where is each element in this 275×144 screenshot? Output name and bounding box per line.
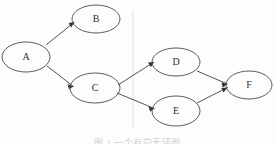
edge-line	[118, 62, 154, 85]
edge-line	[197, 71, 228, 84]
node-d[interactable]: D	[152, 48, 200, 76]
node-label: A	[22, 51, 30, 62]
edge-e-to-f	[197, 88, 228, 104]
edge-line	[47, 66, 74, 87]
node-f[interactable]: F	[226, 71, 272, 99]
node-label: F	[246, 79, 252, 90]
node-b[interactable]: B	[72, 5, 120, 33]
edge-d-to-f	[197, 71, 228, 88]
node-label: E	[173, 105, 179, 116]
node-e[interactable]: E	[152, 96, 200, 126]
figure-canvas: A B C D E F 图 1 一个有向无环图	[0, 0, 275, 144]
edge-a-to-b	[46, 22, 75, 45]
node-label: D	[172, 56, 179, 67]
edge-c-to-e	[117, 93, 155, 112]
edge-c-to-d	[118, 62, 154, 85]
edge-line	[117, 93, 155, 109]
node-label: C	[92, 82, 99, 93]
directed-graph: A B C D E F	[0, 0, 275, 144]
figure-caption: 图 1 一个有向无环图	[0, 137, 275, 144]
edge-a-to-c	[47, 66, 74, 89]
node-label: B	[93, 13, 100, 24]
node-a[interactable]: A	[2, 42, 50, 72]
node-c[interactable]: C	[70, 73, 120, 103]
